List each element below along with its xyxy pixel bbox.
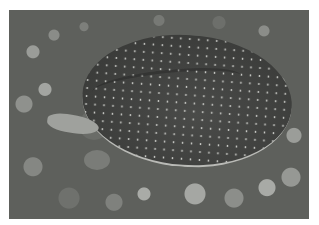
turtle-photo: [9, 10, 309, 219]
turtle-leg: [84, 150, 110, 170]
turtle-shell: [78, 28, 297, 174]
